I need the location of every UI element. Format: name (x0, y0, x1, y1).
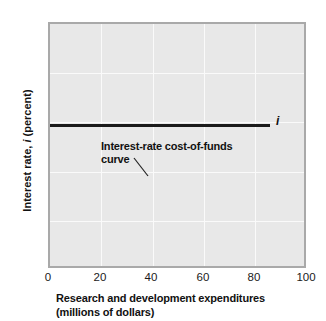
gridline-horizontal-4 (50, 221, 304, 222)
curve-symbol-label: i (276, 115, 279, 127)
x-axis-ticks: 0 20 40 60 80 100 (0, 272, 326, 288)
x-axis-title-line-1: Research and development expenditures (56, 292, 265, 304)
y-axis-title-suffix: (percent) (21, 89, 33, 139)
x-tick-label-0: 0 (28, 272, 68, 284)
x-axis-title-line-2: (millions of dollars) (56, 306, 320, 320)
curve-annotation-text: Interest-rate cost-of-funds curve (101, 140, 259, 166)
chart-figure: i Interest-rate cost-of-funds curve 20 1… (0, 0, 326, 321)
y-axis-title-prefix: Interest rate, (21, 143, 33, 212)
x-axis-title: Research and development expenditures (m… (56, 292, 320, 320)
x-tick-label-100: 100 (286, 272, 326, 284)
annotation-line-2: curve (101, 153, 129, 165)
x-tick-label-40: 40 (131, 272, 171, 284)
gridline-horizontal-8 (50, 172, 304, 173)
x-tick-label-80: 80 (234, 272, 274, 284)
y-axis-title: Interest rate, i (percent) (22, 51, 33, 251)
x-tick-label-60: 60 (183, 272, 223, 284)
cost-of-funds-curve-line (50, 124, 270, 127)
annotation-leader-line (134, 158, 152, 178)
plot-area: i Interest-rate cost-of-funds curve (48, 22, 306, 268)
y-axis-title-symbol: i (21, 139, 33, 142)
x-tick-label-20: 20 (80, 272, 120, 284)
annotation-line-1: Interest-rate cost-of-funds (101, 140, 233, 152)
gridline-horizontal-12 (50, 122, 304, 123)
gridline-horizontal-16 (50, 73, 304, 74)
